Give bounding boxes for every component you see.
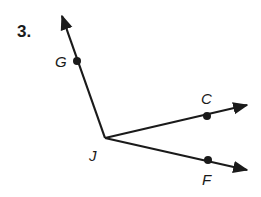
ray-jg: G	[55, 16, 105, 138]
label-j: J	[88, 147, 97, 164]
label-c: C	[201, 90, 212, 107]
point-g	[73, 57, 81, 65]
label-f: F	[202, 171, 212, 188]
angle-diagram: G C F J	[0, 0, 261, 197]
ray-jf: F	[105, 138, 247, 188]
point-f	[204, 156, 212, 164]
ray-jc: C	[105, 90, 247, 138]
label-g: G	[55, 53, 67, 70]
point-c	[203, 112, 211, 120]
